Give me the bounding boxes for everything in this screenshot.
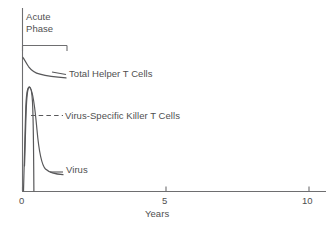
- acute-phase-bracket: [23, 46, 68, 52]
- acute-phase-label: Acute Phase: [26, 11, 70, 35]
- series-label-total-helper-t-cells: Total Helper T Cells: [69, 68, 153, 80]
- curve-total-helper-t-cells: [23, 58, 66, 78]
- leader-total-helper-t-cells: [52, 72, 66, 75]
- x-tick-label-5: 5: [162, 195, 167, 207]
- x-tick-label-10: 10: [302, 195, 313, 207]
- x-tick-label-0: 0: [19, 195, 24, 207]
- chart-container: Acute Phase Total Helper T Cells Virus-S…: [0, 0, 330, 227]
- series-label-virus: Virus: [66, 164, 88, 176]
- curve-virus: [24, 87, 64, 191]
- series-label-virus-specific-killer-t-cells: Virus-Specific Killer T Cells: [65, 110, 180, 122]
- x-axis-title: Years: [145, 208, 169, 220]
